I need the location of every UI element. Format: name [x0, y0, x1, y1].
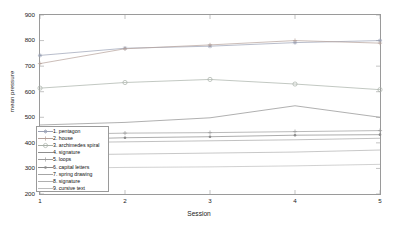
legend-item[interactable]: 5. loops [38, 156, 108, 163]
legend-label: 4. signature [53, 149, 80, 156]
legend-item[interactable]: 2. house [38, 135, 108, 142]
legend-box: 1. pentagon2. house3. archimedes spiral4… [36, 126, 109, 192]
x-axis-label: Session [0, 210, 398, 217]
y-tick-label: 300 [9, 165, 35, 171]
legend-marker-icon [38, 171, 53, 178]
legend-label: 8. signature [53, 178, 80, 185]
legend-item[interactable]: 1. pentagon [38, 128, 108, 135]
legend-item[interactable]: 9. cursive text [38, 185, 108, 192]
y-tick-label: 900 [9, 12, 35, 18]
legend-label: 9. cursive text [53, 185, 85, 192]
x-tick-label: 1 [34, 198, 46, 204]
legend-label: 1. pentagon [53, 128, 80, 135]
y-tick-label: 800 [9, 37, 35, 43]
legend-marker-icon [38, 142, 53, 149]
y-tick-label: 200 [9, 191, 35, 197]
legend-label: 6. capital letters [53, 164, 89, 171]
x-tick-label: 5 [374, 198, 386, 204]
legend-item[interactable]: 4. signature [38, 149, 108, 156]
legend-marker-icon [38, 178, 53, 185]
legend-item[interactable]: 8. signature [38, 178, 108, 185]
legend-item[interactable]: 3. archimedes spiral [38, 142, 108, 149]
legend-marker-icon [38, 149, 53, 156]
legend-marker-icon [38, 135, 53, 142]
chart-figure: mean pressure Session 1. pentagon2. hous… [0, 0, 398, 226]
y-tick-label: 700 [9, 63, 35, 69]
legend-marker-icon [38, 164, 53, 171]
y-tick-label: 600 [9, 89, 35, 95]
x-tick-label: 3 [204, 198, 216, 204]
legend-label: 5. loops [53, 156, 71, 163]
legend-label: 7. spring drawing [53, 171, 93, 178]
legend-marker-icon [38, 128, 53, 135]
y-tick-label: 500 [9, 114, 35, 120]
legend-marker-icon [38, 156, 53, 163]
y-tick-label: 400 [9, 140, 35, 146]
legend-marker-icon [38, 185, 53, 192]
legend-label: 2. house [53, 135, 73, 142]
legend-item[interactable]: 6. capital letters [38, 163, 108, 170]
legend-label: 3. archimedes spiral [53, 142, 99, 149]
x-tick-label: 4 [289, 198, 301, 204]
x-tick-label: 2 [119, 198, 131, 204]
legend-item[interactable]: 7. spring drawing [38, 171, 108, 178]
